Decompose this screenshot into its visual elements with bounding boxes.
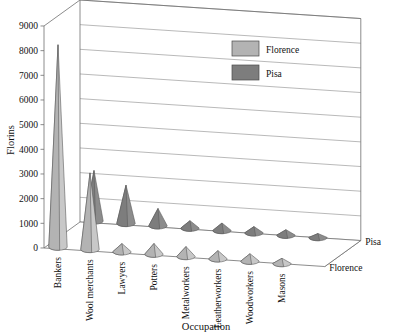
legend-label-pisa: Pisa [266,69,283,79]
y-axis-tick-label: 7000 [19,71,38,81]
y-axis-tick-label: 8000 [19,46,38,56]
gridline [80,99,361,118]
florins-by-occupation-3d-cone-chart: 0100020003000400050006000700080009000 Ba… [0,0,412,334]
gridline [80,25,361,44]
cone-left-face [117,185,128,227]
cone-pisa-leatherworkers [245,227,263,236]
y-axis-title: Florins [5,125,16,155]
depth-axis-label-florence: Florence [329,263,362,273]
chart-legend: FlorencePisa [232,41,299,80]
cone-left-face [49,45,60,251]
cone-left-face [213,223,224,234]
cone-left-face [81,173,92,253]
cone-left-face [245,227,256,236]
cone-florence-bankers [49,45,67,251]
y-axis-tick-label: 6000 [19,95,38,105]
gridline [80,74,361,93]
x-axis-category-label: Potters [149,264,159,291]
x-axis-category-label: Lawyers [117,261,127,294]
y-axis-tick-label: 3000 [19,169,38,179]
x-axis-category-label: Bankers [53,257,63,288]
cone-pisa-woodworkers [277,230,295,239]
cone-left-face [309,234,320,241]
legend-label-florence: Florence [266,45,299,55]
cone-left-face [277,230,288,239]
x-axis-category-label: Woodworkers [245,271,255,324]
legend-swatch-pisa [232,65,259,80]
x-axis-category-label: Leatherworkers [213,268,223,328]
cone-pisa-masons [309,234,327,241]
y-axis-tick-label: 2000 [19,194,38,204]
chart-container: 0100020003000400050006000700080009000 Ba… [0,0,412,334]
top-left-edge [44,0,80,26]
gridline [80,49,361,68]
gridline [80,173,361,192]
cone-pisa-potters [181,221,199,232]
cone-left-face [149,208,160,229]
x-axis-category-labels: BankersWool merchantsLawyersPottersMetal… [53,257,287,329]
cone-pisa-lawyers [149,208,167,229]
cone-left-face [181,221,192,232]
cone-pisa-wool-merchants [117,185,135,227]
y-axis-tick-label: 1000 [19,219,38,229]
x-axis-category-label: Wool merchants [85,259,95,321]
x-axis-category-label: Metalworkers [181,266,191,319]
y-axis-tick-label: 5000 [19,120,38,130]
legend-swatch-florence [232,41,259,56]
x-axis-title: Occupation [182,321,231,332]
y-axis-tick-label: 0 [33,243,38,253]
x-axis-category-label: Masons [277,273,287,303]
y-axis-tick-label: 9000 [19,21,38,31]
gridline [80,123,361,142]
y-axis-tick-labels: 0100020003000400050006000700080009000 [19,21,44,253]
top-back-edge [80,0,361,19]
cone-pisa-metalworkers [213,223,231,234]
depth-axis-label-pisa: Pisa [365,237,382,247]
y-axis-tick-label: 4000 [19,145,38,155]
gridline [80,148,361,167]
